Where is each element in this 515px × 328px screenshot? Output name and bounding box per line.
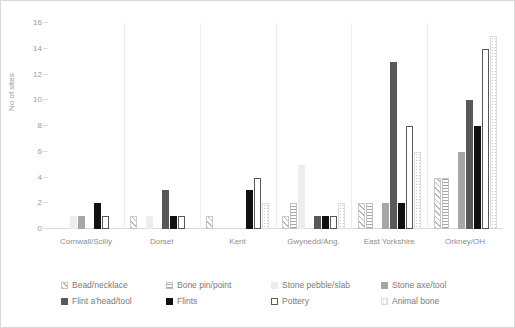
bar-animal[interactable] — [262, 203, 269, 229]
bar-pebble[interactable] — [146, 216, 153, 229]
bar-group-bars — [48, 23, 124, 229]
bar-axe[interactable] — [78, 216, 85, 229]
chart-figure: No of sites 0246810121416 Cornwall/Scill… — [0, 0, 515, 328]
bar-group: Cornwall/Scilly — [48, 23, 124, 229]
legend-swatch-icon — [381, 298, 388, 305]
legend-label: Stone axe/tool — [392, 281, 446, 290]
x-tick-label: Orkney/OH — [445, 237, 485, 246]
legend-swatch-icon — [381, 282, 388, 289]
x-tick-label: Kent — [229, 237, 245, 246]
bar-group-bars — [276, 23, 352, 229]
x-tick-label: Dorset — [150, 237, 174, 246]
legend-item[interactable]: Flints — [166, 293, 271, 309]
bar-group: Orkney/OH — [427, 23, 503, 229]
bar-pebble[interactable] — [298, 165, 305, 229]
bar-bonepin[interactable] — [290, 203, 297, 229]
bar-flints[interactable] — [170, 216, 177, 229]
bar-group-bars — [351, 23, 427, 229]
legend-label: Stone pebble/slab — [282, 281, 350, 290]
bar-flints[interactable] — [246, 190, 253, 229]
bar-pottery[interactable] — [102, 216, 109, 229]
legend-item[interactable]: Stone axe/tool — [381, 277, 471, 293]
legend-swatch-icon — [61, 298, 68, 305]
legend-item[interactable]: Animal bone — [381, 293, 471, 309]
legend-item[interactable]: Bone pin/point — [166, 277, 271, 293]
y-axis-title: No of sites — [7, 73, 16, 111]
bar-group: Dorset — [124, 23, 200, 229]
bar-bead[interactable] — [206, 216, 213, 229]
bar-axe[interactable] — [458, 152, 465, 229]
bar-group: Gwynedd/Ang. — [276, 23, 352, 229]
bar-pottery[interactable] — [330, 216, 337, 229]
y-tick-label: 12 — [33, 69, 42, 78]
bar-animal[interactable] — [490, 36, 497, 229]
bar-flints[interactable] — [322, 216, 329, 229]
bar-flinthead[interactable] — [314, 216, 321, 229]
bar-flinthead[interactable] — [390, 62, 397, 229]
legend-item[interactable]: Flint a'head/tool — [61, 293, 166, 309]
legend-swatch-icon — [271, 298, 278, 305]
bar-flinthead[interactable] — [466, 100, 473, 229]
bar-bonepin[interactable] — [366, 203, 373, 229]
y-tick-label: 6 — [38, 146, 42, 155]
bar-pebble[interactable] — [70, 216, 77, 229]
bar-bead[interactable] — [282, 216, 289, 229]
bar-pottery[interactable] — [254, 178, 261, 230]
bar-bead[interactable] — [130, 216, 137, 229]
x-tick-label: East Yorkshire — [364, 237, 415, 246]
x-tick-label: Cornwall/Scilly — [60, 237, 112, 246]
x-tick-label: Gwynedd/Ang. — [287, 237, 339, 246]
y-tick-label: 10 — [33, 95, 42, 104]
bar-group-bars — [200, 23, 276, 229]
bar-pottery[interactable] — [482, 49, 489, 229]
legend-label: Bone pin/point — [177, 281, 231, 290]
bar-flinthead[interactable] — [162, 190, 169, 229]
legend-swatch-icon — [271, 282, 278, 289]
legend-item[interactable]: Stone pebble/slab — [271, 277, 381, 293]
legend-swatch-icon — [166, 298, 173, 305]
legend-swatch-icon — [166, 282, 173, 289]
y-tick-label: 4 — [38, 172, 42, 181]
legend-label: Bead/necklace — [72, 281, 128, 290]
bar-flints[interactable] — [398, 203, 405, 229]
bar-flints[interactable] — [94, 203, 101, 229]
bar-axe[interactable] — [382, 203, 389, 229]
plot-area: 0246810121416 Cornwall/ScillyDorsetKentG… — [48, 23, 503, 229]
legend-label: Animal bone — [392, 297, 439, 306]
legend-item[interactable]: Bead/necklace — [61, 277, 166, 293]
legend-label: Pottery — [282, 297, 309, 306]
legend-swatch-icon — [61, 282, 68, 289]
chart-legend: Bead/necklaceBone pin/pointStone pebble/… — [61, 277, 471, 309]
y-tick-label: 14 — [33, 43, 42, 52]
y-tick-label: 0 — [38, 224, 42, 233]
bar-bead[interactable] — [434, 178, 441, 230]
bar-flints[interactable] — [474, 126, 481, 229]
y-tick-label: 8 — [38, 121, 42, 130]
bar-group: East Yorkshire — [351, 23, 427, 229]
legend-item[interactable]: Pottery — [271, 293, 381, 309]
legend-label: Flints — [177, 297, 197, 306]
bar-animal[interactable] — [414, 152, 421, 229]
y-tick-label: 16 — [33, 18, 42, 27]
bar-bonepin[interactable] — [442, 178, 449, 230]
legend-label: Flint a'head/tool — [72, 297, 132, 306]
bar-animal[interactable] — [338, 203, 345, 229]
bar-pottery[interactable] — [406, 126, 413, 229]
bar-pottery[interactable] — [178, 216, 185, 229]
bar-group-bars — [427, 23, 503, 229]
bar-group: Kent — [200, 23, 276, 229]
bar-bead[interactable] — [358, 203, 365, 229]
bar-group-bars — [124, 23, 200, 229]
y-tick-label: 2 — [38, 198, 42, 207]
